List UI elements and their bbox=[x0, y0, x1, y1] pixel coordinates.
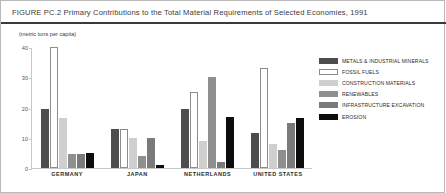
y-axis-tick-mark bbox=[29, 169, 32, 170]
x-axis bbox=[31, 168, 312, 169]
bar bbox=[226, 117, 234, 168]
bar bbox=[86, 153, 94, 168]
legend-swatch bbox=[319, 69, 338, 75]
legend-item: METALS & INDUSTRIAL MINERALS bbox=[319, 55, 429, 66]
bar bbox=[156, 165, 164, 168]
bar bbox=[129, 138, 137, 168]
legend-swatch bbox=[319, 91, 338, 97]
bar bbox=[77, 154, 85, 168]
bar bbox=[111, 129, 119, 168]
title-divider bbox=[1, 22, 446, 24]
bar bbox=[287, 123, 295, 168]
legend-label: INFRASTRUCTURE EXCAVATION bbox=[342, 102, 424, 108]
chart-legend: METALS & INDUSTRIAL MINERALSFOSSIL FUELS… bbox=[319, 55, 429, 122]
bar bbox=[190, 92, 198, 168]
bar bbox=[251, 133, 259, 168]
bar bbox=[260, 68, 268, 168]
bar-groups bbox=[32, 48, 312, 168]
legend-swatch bbox=[319, 114, 338, 120]
y-axis-tick-label: 10 bbox=[22, 136, 28, 142]
legend-item: FOSSIL FUELS bbox=[319, 66, 429, 77]
bar-group bbox=[102, 48, 172, 168]
plot-area: 010203040 bbox=[31, 48, 312, 169]
legend-label: RENEWABLES bbox=[342, 91, 378, 97]
legend-swatch bbox=[319, 58, 338, 64]
figure-subtitle: (metric tons per capita) bbox=[19, 31, 76, 37]
category-label: UNITED STATES bbox=[243, 171, 313, 177]
bar-group bbox=[242, 48, 312, 168]
legend-swatch bbox=[319, 80, 338, 86]
x-axis-category-labels: GERMANYJAPANNETHERLANDSUNITED STATES bbox=[32, 171, 313, 177]
bar bbox=[199, 141, 207, 168]
bar bbox=[68, 154, 76, 168]
bar bbox=[278, 150, 286, 168]
bar-group bbox=[172, 48, 242, 168]
legend-label: FOSSIL FUELS bbox=[342, 69, 379, 75]
category-label: JAPAN bbox=[102, 171, 172, 177]
bar bbox=[147, 138, 155, 168]
category-label: NETHERLANDS bbox=[173, 171, 243, 177]
legend-label: CONSTRUCTION MATERIALS bbox=[342, 80, 415, 86]
figure-title: FIGURE PC.2 Primary Contributions to the… bbox=[12, 8, 368, 17]
bar bbox=[59, 118, 67, 168]
bar-group bbox=[32, 48, 102, 168]
legend-item: INFRASTRUCTURE EXCAVATION bbox=[319, 100, 429, 111]
bar bbox=[41, 109, 49, 168]
bar bbox=[181, 109, 189, 168]
category-label: GERMANY bbox=[32, 171, 102, 177]
y-axis-tick-label: 40 bbox=[22, 45, 28, 51]
legend-item: RENEWABLES bbox=[319, 89, 429, 100]
legend-swatch bbox=[319, 102, 338, 108]
legend-label: METALS & INDUSTRIAL MINERALS bbox=[342, 58, 429, 64]
bar bbox=[138, 156, 146, 168]
bar bbox=[269, 144, 277, 168]
bar bbox=[50, 47, 58, 168]
y-axis-tick-label: 30 bbox=[22, 75, 28, 81]
bar bbox=[208, 77, 216, 168]
legend-item: EROSION bbox=[319, 111, 429, 122]
bar bbox=[120, 129, 128, 168]
legend-label: EROSION bbox=[342, 114, 366, 120]
bar bbox=[217, 162, 225, 168]
y-axis-tick-label: 20 bbox=[22, 106, 28, 112]
legend-item: CONSTRUCTION MATERIALS bbox=[319, 77, 429, 88]
bar bbox=[296, 118, 304, 168]
